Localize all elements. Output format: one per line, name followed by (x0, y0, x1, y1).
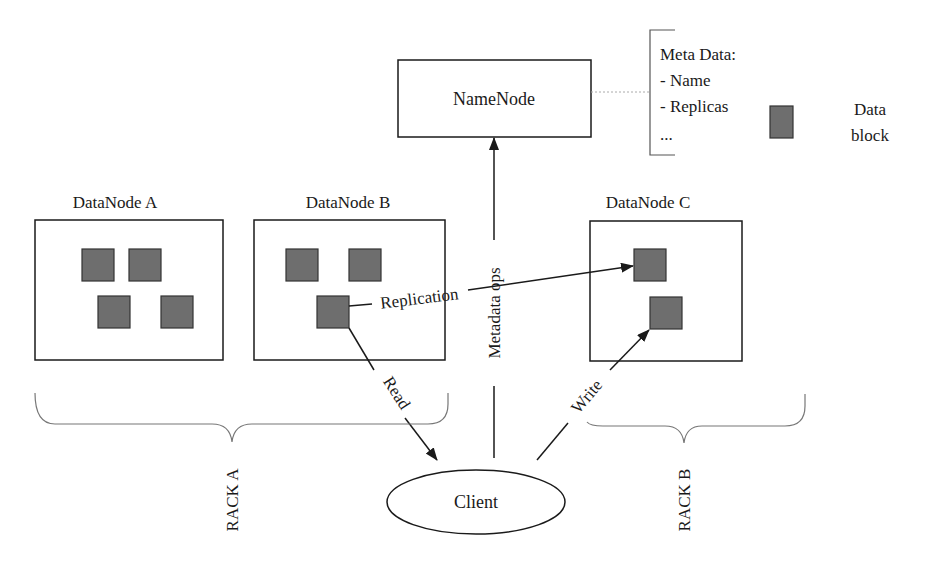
legend-label-1: Data (854, 100, 887, 119)
datanode-a: DataNode A (35, 193, 223, 360)
datanode-a-label: DataNode A (73, 193, 158, 212)
rack-a: RACK A (35, 393, 448, 531)
data-block (98, 296, 130, 328)
metadata-ops-edge: Metadata ops (485, 138, 504, 458)
data-block (129, 249, 161, 281)
data-block (286, 249, 318, 281)
legend-label-2: block (851, 126, 889, 145)
datanode-b: DataNode B (254, 193, 445, 360)
legend: Data block (770, 100, 889, 145)
metadata-title: Meta Data: (660, 45, 736, 64)
data-block-source (317, 296, 349, 328)
hdfs-diagram: NameNode Meta Data: - Name - Replicas ..… (0, 0, 932, 571)
data-block (82, 249, 114, 281)
data-block-replica (634, 249, 666, 281)
rack-b: RACK B (587, 394, 805, 531)
datanode-c: DataNode C (590, 193, 742, 361)
rack-a-label: RACK A (223, 468, 242, 532)
metadata-ops-label: Metadata ops (485, 267, 504, 358)
datanode-c-label: DataNode C (606, 193, 691, 212)
datanode-b-label: DataNode B (306, 193, 391, 212)
client-label: Client (454, 492, 498, 512)
write-label: Write (567, 376, 606, 417)
metadata-item-ellipsis: ... (660, 125, 673, 144)
metadata-panel: Meta Data: - Name - Replicas ... (650, 30, 736, 155)
namenode: NameNode (398, 60, 591, 137)
metadata-item-replicas: - Replicas (660, 97, 728, 116)
client: Client (387, 470, 565, 534)
data-block (349, 249, 381, 281)
data-block-written (650, 297, 682, 329)
legend-data-block-icon (770, 106, 793, 138)
read-label: Read (379, 373, 414, 413)
data-block (161, 296, 193, 328)
metadata-item-name: - Name (660, 71, 711, 90)
namenode-label: NameNode (453, 89, 535, 109)
rack-b-label: RACK B (675, 469, 694, 532)
